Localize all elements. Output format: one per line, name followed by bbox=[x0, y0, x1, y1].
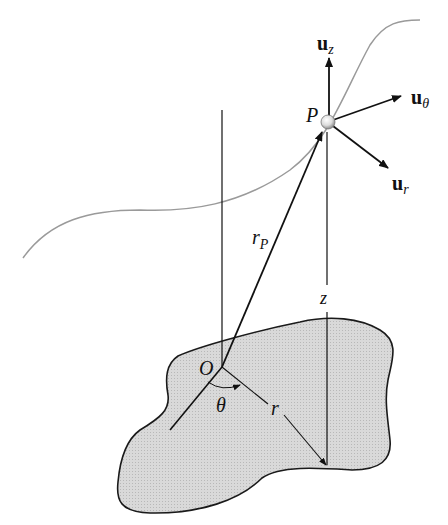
planar-region bbox=[118, 318, 393, 513]
unit-z-label: uz bbox=[317, 32, 334, 57]
origin-o-label: O bbox=[199, 357, 213, 379]
radial-r-label: r bbox=[271, 397, 279, 419]
unit-theta-label: uθ bbox=[411, 86, 429, 111]
point-p-label: P bbox=[305, 104, 318, 126]
unit-r-label: ur bbox=[392, 172, 409, 197]
unit-vector-ur-arrow bbox=[333, 126, 388, 168]
cylindrical-coordinates-diagram: P uz uθ ur rP z O θ r bbox=[0, 0, 448, 525]
particle-p bbox=[321, 115, 335, 129]
theta-label: θ bbox=[216, 394, 226, 416]
height-z-label: z bbox=[319, 288, 327, 308]
position-vector-label: rP bbox=[252, 226, 269, 252]
